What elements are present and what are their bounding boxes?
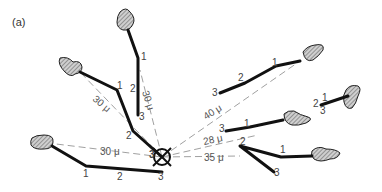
svg-text:3: 3	[274, 167, 280, 178]
svg-text:40 μ: 40 μ	[201, 102, 224, 122]
cell-upper-left	[59, 58, 82, 76]
svg-text:2: 2	[130, 83, 136, 94]
svg-text:1: 1	[117, 80, 123, 91]
trajectory-top	[128, 30, 138, 115]
svg-text:2: 2	[126, 130, 132, 141]
svg-text:3: 3	[158, 171, 164, 182]
svg-text:1: 1	[272, 57, 278, 68]
svg-text:35 μ: 35 μ	[204, 152, 224, 163]
panel-label: (a)	[12, 16, 25, 28]
cell-left	[31, 135, 53, 149]
svg-text:2: 2	[117, 171, 123, 182]
svg-text:1: 1	[280, 144, 286, 155]
svg-text:30 μ: 30 μ	[91, 93, 113, 114]
svg-text:3: 3	[139, 111, 145, 122]
cell-lower-right	[311, 147, 340, 161]
svg-text:3: 3	[149, 149, 155, 160]
diagram-canvas: 1 2 3 1 2 3 1 2 3 1 2 3 1 2 3 1 3 1 2 3	[0, 0, 382, 192]
svg-text:28 μ: 28 μ	[202, 132, 224, 147]
svg-text:2: 2	[238, 72, 244, 83]
cell-migration-diagram: (a)	[0, 0, 382, 192]
svg-text:30 μ: 30 μ	[100, 146, 120, 157]
svg-text:1: 1	[244, 118, 250, 129]
cells	[31, 9, 360, 161]
cell-top	[117, 9, 134, 30]
svg-text:2: 2	[313, 98, 319, 109]
trajectory-right	[226, 120, 283, 131]
svg-text:3: 3	[320, 105, 326, 116]
svg-text:1: 1	[322, 92, 328, 103]
cell-upper-right	[303, 45, 323, 61]
cell-right	[284, 111, 311, 125]
trajectory-upper-right	[220, 61, 300, 93]
svg-text:1: 1	[141, 51, 147, 62]
svg-text:1: 1	[83, 168, 89, 179]
svg-text:30 μ: 30 μ	[140, 89, 157, 111]
svg-text:2: 2	[240, 136, 246, 147]
svg-text:3: 3	[212, 87, 218, 98]
